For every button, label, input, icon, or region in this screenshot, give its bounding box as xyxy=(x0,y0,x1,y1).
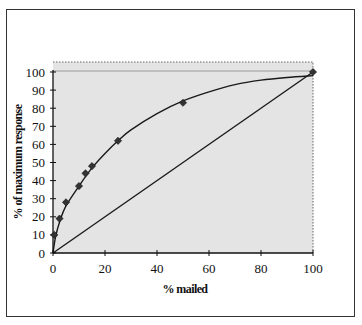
y-tick-label: 80 xyxy=(32,101,45,116)
x-tick-label: 0 xyxy=(50,261,57,276)
plot-background xyxy=(53,62,313,253)
x-tick-label: 80 xyxy=(255,261,268,276)
chart-canvas: 0102030405060708090100020406080100 % mai… xyxy=(0,0,362,325)
y-axis-title: % of maximum response xyxy=(11,103,25,219)
y-tick-label: 10 xyxy=(32,227,45,242)
x-axis-title: % mailed xyxy=(163,282,209,296)
x-tick-label: 40 xyxy=(151,261,164,276)
x-tick-label: 100 xyxy=(303,261,323,276)
y-tick-label: 20 xyxy=(32,209,45,224)
x-tick-label: 60 xyxy=(203,261,216,276)
y-tick-label: 50 xyxy=(32,155,45,170)
y-tick-label: 100 xyxy=(26,65,46,80)
y-tick-label: 30 xyxy=(32,191,45,206)
y-tick-label: 60 xyxy=(32,137,45,152)
y-tick-label: 90 xyxy=(32,83,45,98)
y-tick-label: 40 xyxy=(32,173,45,188)
y-tick-label: 0 xyxy=(39,246,46,261)
y-tick-label: 70 xyxy=(32,119,45,134)
x-tick-label: 20 xyxy=(99,261,112,276)
plot-area xyxy=(53,62,315,253)
